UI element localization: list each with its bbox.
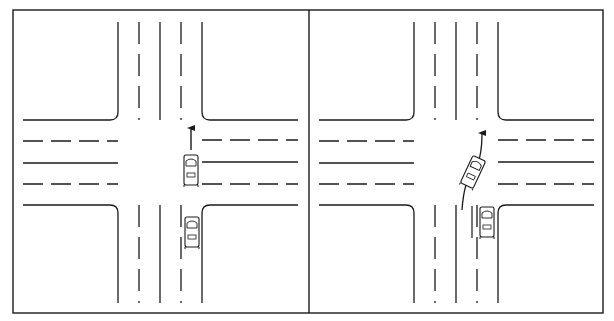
intersection-roads	[23, 22, 298, 303]
panel-left	[23, 22, 298, 303]
panel-right	[319, 22, 594, 303]
swerving-car-icon	[459, 155, 485, 190]
intersection-figure	[0, 0, 614, 321]
stopped-car-icon	[480, 207, 494, 239]
moving-car-icon	[184, 155, 198, 187]
intersection-roads	[319, 22, 594, 303]
following-car-icon	[185, 217, 199, 249]
